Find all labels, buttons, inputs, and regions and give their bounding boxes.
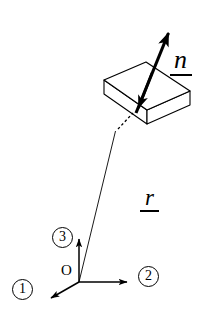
position-vector-r-line [79, 131, 116, 282]
origin-label: O [61, 263, 72, 278]
position-vector-label: r [140, 186, 159, 212]
vector-diagram-figure: n r O 1 2 3 [0, 0, 209, 317]
normal-vector-label: n [169, 47, 192, 76]
axis-2-badge: 2 [138, 266, 159, 287]
axis-3-badge: 3 [52, 227, 73, 248]
axis-1-line [51, 282, 79, 298]
normal-foot-dashed-line [118, 113, 133, 129]
position-vector-glyph: r [140, 186, 159, 209]
normal-vector-underbar [170, 74, 192, 76]
axis-1-badge: 1 [12, 279, 33, 300]
normal-vector-glyph: n [169, 47, 192, 73]
position-vector-underbar [140, 210, 159, 212]
